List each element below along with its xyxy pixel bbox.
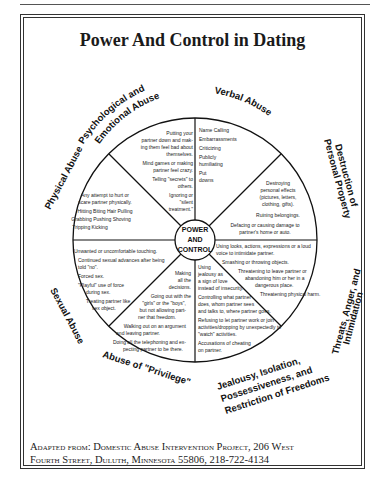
svg-text:activities/dropping by unexpec: activities/dropping by unexpectedly to (198, 324, 281, 330)
svg-text:Destroying: Destroying (266, 180, 290, 186)
svg-text:Telling "secrets" to: Telling "secrets" to (152, 176, 193, 182)
svg-text:Name Calling: Name Calling (199, 127, 229, 133)
svg-text:(pictures, letters,: (pictures, letters, (260, 194, 297, 200)
svg-text:Unwanted or uncomfortable touc: Unwanted or uncomfortable touching. (74, 248, 157, 254)
svg-text:partner's home or auto.: partner's home or auto. (239, 229, 291, 235)
svg-text:ner that freedom.: ner that freedom. (138, 314, 176, 320)
svg-text:clothing, gifts).: clothing, gifts). (262, 201, 294, 207)
svg-text:Treating partner like: Treating partner like (86, 298, 130, 304)
svg-text:Using looks, actions, expressi: Using looks, actions, expressions or a l… (216, 243, 311, 249)
svg-text:"girls" or the "boys",: "girls" or the "boys", (142, 300, 186, 306)
segment-verbal-items: Name Calling Embarrassments Criticizing … (199, 127, 237, 183)
svg-text:Publicly: Publicly (199, 154, 217, 160)
svg-text:Ignoring or: Ignoring or (169, 192, 193, 198)
svg-text:and leaving partner.: and leaving partner. (116, 330, 160, 336)
svg-text:a sign of love: a sign of love (198, 278, 228, 284)
svg-text:Continued sexual advances afte: Continued sexual advances after being (78, 257, 165, 263)
svg-text:dangerous place.: dangerous place. (255, 282, 293, 288)
label-psychological: Psychological and (76, 82, 147, 146)
svg-text:others.: others. (178, 183, 193, 189)
svg-text:Refusing to let partner work o: Refusing to let partner work or join (198, 317, 274, 323)
svg-text:pecting partner to be there.: pecting partner to be there. (123, 346, 183, 352)
svg-text:"Playful" use of force: "Playful" use of force (78, 282, 124, 288)
svg-text:Mind games or making: Mind games or making (142, 160, 193, 166)
svg-text:Any attempt to hurt or: Any attempt to hurt or (81, 192, 129, 198)
svg-text:during sex.: during sex. (86, 289, 110, 295)
svg-text:Doing all the telephoning and: Doing all the telephoning and ex- (113, 339, 186, 345)
footer-citation: Adapted from: Domestic Abuse Interventio… (30, 440, 360, 466)
footer-line-1: Adapted from: Domestic Abuse Interventio… (30, 440, 360, 453)
svg-text:on partner.: on partner. (198, 347, 222, 353)
svg-text:Grabbing Pushing Shoving: Grabbing Pushing Shoving (71, 216, 131, 222)
svg-text:Ruining belongings.: Ruining belongings. (256, 212, 300, 218)
svg-text:jealousy as: jealousy as (197, 271, 224, 277)
svg-text:ing them feel bad about: ing them feel bad about (141, 144, 194, 150)
svg-text:abandoning him or her in a: abandoning him or her in a (245, 275, 305, 281)
svg-text:and talks to, where partner go: and talks to, where partner goes. (198, 308, 271, 314)
svg-text:"silent: "silent (180, 199, 194, 205)
svg-text:humiliating: humiliating (199, 161, 223, 167)
svg-text:decisions.: decisions. (169, 284, 191, 290)
svg-text:Criticizing: Criticizing (199, 145, 221, 151)
segment-physical-items: Any attempt to hurt or scare partner phy… (71, 192, 132, 230)
svg-text:scare partner physically.: scare partner physically. (78, 199, 132, 205)
svg-text:Threatening to leave partner o: Threatening to leave partner or (238, 268, 307, 274)
svg-text:told "no".: told "no". (78, 264, 98, 270)
power-control-wheel: POWER AND CONTROL Psychological and Emot… (0, 0, 386, 487)
svg-text:does, whom partner sees: does, whom partner sees (198, 301, 255, 307)
svg-text:but not allowing part-: but not allowing part- (140, 307, 187, 313)
segment-destruction-items: Destroying personal effects (pictures, l… (230, 180, 300, 235)
svg-text:sex object.: sex object. (92, 305, 116, 311)
footer-line-2: Fourth Street, Duluth, Minnesota 55806, … (30, 453, 360, 466)
svg-text:all the: all the (178, 277, 192, 283)
svg-text:personal effects: personal effects (260, 187, 296, 193)
svg-text:voice to intimidate partner.: voice to intimidate partner. (216, 250, 274, 256)
svg-text:partner down and mak-: partner down and mak- (142, 137, 194, 143)
svg-text:Hitting Biting Hair Pullin: Hitting Biting Hair Pulling (77, 208, 132, 214)
label-sexual-abuse: Sexual Abuse (48, 286, 87, 346)
segment-psychological-items: Putting your partner down and mak- ing t… (141, 130, 194, 212)
svg-text:"watch" activities.: "watch" activities. (198, 331, 237, 337)
svg-text:Put: Put (199, 170, 207, 176)
svg-text:treatment.": treatment." (169, 206, 194, 212)
svg-text:Going out with the: Going out with the (151, 293, 192, 299)
svg-text:Forced sex.: Forced sex. (78, 273, 104, 279)
svg-text:Tripping Kicking: Tripping Kicking (72, 224, 108, 230)
svg-text:downs: downs (199, 177, 214, 183)
svg-text:Putting your: Putting your (166, 130, 193, 136)
label-abuse-of-privilege: Abuse of "Privilege" (101, 348, 192, 387)
center-text-and: AND (187, 236, 202, 243)
svg-text:Walking out on an argument: Walking out on an argument (124, 323, 187, 329)
svg-text:instead of insecurity.: instead of insecurity. (198, 285, 243, 291)
svg-text:Using: Using (198, 264, 211, 270)
svg-text:Controlling what partner: Controlling what partner (198, 294, 251, 300)
svg-text:themselves.: themselves. (166, 151, 193, 157)
center-text-control: CONTROL (178, 246, 213, 253)
svg-text:Defacing or causing damage to: Defacing or causing damage to (230, 222, 299, 228)
svg-text:Smashing or throwing objects.: Smashing or throwing objects. (222, 259, 289, 265)
svg-text:partner feel crazy.: partner feel crazy. (153, 167, 193, 173)
center-text-power: POWER (182, 226, 208, 233)
svg-text:Threatening physical harm.: Threatening physical harm. (260, 291, 320, 297)
svg-text:Embarrassments: Embarrassments (199, 136, 237, 142)
svg-text:Making: Making (175, 270, 191, 276)
svg-text:Accusations of cheating: Accusations of cheating (198, 340, 251, 346)
label-verbal-abuse: Verbal Abuse (214, 84, 274, 117)
